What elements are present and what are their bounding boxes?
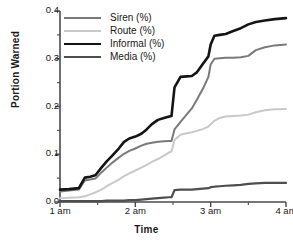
legend-swatch: [64, 43, 101, 45]
y-tick-label: 0.3: [29, 52, 59, 63]
series-line: [60, 109, 286, 198]
x-tick-label: 1 am: [40, 205, 80, 216]
legend-item: Media (%): [64, 50, 164, 63]
chart-container: Portion Warned Time Siren (%)Route (%)In…: [0, 0, 293, 241]
series-line: [60, 44, 286, 191]
legend-label: Media (%): [110, 50, 156, 63]
y-tick-label: 0.2: [29, 100, 59, 111]
legend-item: Informal (%): [64, 37, 164, 50]
legend-label: Siren (%): [110, 11, 152, 24]
legend-swatch: [64, 17, 101, 19]
legend-label: Route (%): [110, 24, 155, 37]
legend-item: Siren (%): [64, 11, 164, 24]
legend-item: Route (%): [64, 24, 164, 37]
y-tick-label: 0.4: [29, 4, 59, 15]
y-tick-label: 0.1: [29, 147, 59, 158]
legend-swatch: [64, 56, 101, 58]
legend-swatch: [64, 30, 101, 32]
legend-label: Informal (%): [110, 37, 164, 50]
x-tick-label: 2 am: [115, 205, 155, 216]
chart-legend: Siren (%)Route (%)Informal (%)Media (%): [64, 11, 164, 63]
x-tick-label: 4 am: [266, 205, 293, 216]
x-tick-label: 3 am: [191, 205, 231, 216]
